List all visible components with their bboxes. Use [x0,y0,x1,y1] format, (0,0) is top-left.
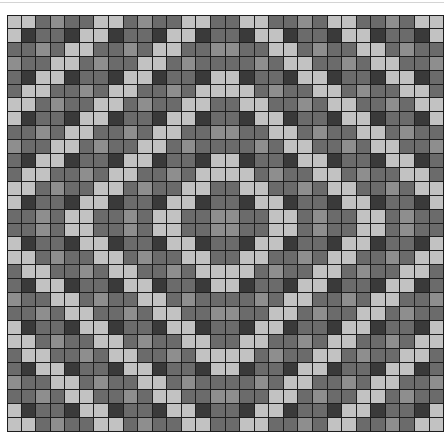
grid-cell [415,224,430,237]
grid-cell [22,363,36,376]
grid-cell [342,251,357,265]
grid-cell [109,112,124,126]
grid-cell [153,196,167,210]
grid-cell [357,196,371,210]
grid-cell [226,168,240,182]
grid-cell [36,390,51,404]
grid-cell [138,335,153,349]
grid-cell [226,140,240,154]
grid-cell [328,251,342,265]
grid-cell [328,71,342,85]
grid-cell [415,71,430,85]
grid-cell [80,335,94,349]
grid-cell [386,15,400,29]
grid-cell [284,251,298,265]
grid-cell [80,390,94,404]
grid-cell [196,29,211,43]
grid-cell [153,279,167,293]
grid-cell [182,196,196,210]
grid-cell [124,376,138,390]
grid-cell [124,57,138,71]
grid-cell [371,307,386,321]
grid-cell [328,404,342,418]
grid-cell [138,251,153,265]
grid-cell [400,376,415,390]
grid-cell [313,71,328,85]
grid-cell [167,307,182,321]
grid-cell [400,154,415,168]
grid-cell [167,112,182,126]
grid-cell [22,404,36,418]
grid-cell [80,237,94,251]
grid-cell [36,363,51,376]
grid-cell [65,57,80,71]
grid-cell [430,210,444,224]
grid-cell [22,15,36,29]
grid-cell [36,85,51,98]
grid-cell [153,85,167,98]
grid-cell [400,390,415,404]
grid-cell [94,349,109,363]
grid-cell [226,237,240,251]
grid-cell [7,321,22,335]
grid-cell [313,349,328,363]
grid-cell [211,126,226,140]
grid-cell [7,85,22,98]
grid-cell [7,140,22,154]
grid-cell [153,182,167,196]
grid-cell [7,112,22,126]
grid-cell [124,98,138,112]
grid-cell [386,293,400,307]
grid-cell [80,29,94,43]
grid-cell [284,293,298,307]
grid-cell [7,418,22,432]
grid-cell [415,307,430,321]
grid-cell [80,293,94,307]
grid-cell [342,265,357,279]
grid-cell [328,168,342,182]
grid-cell [240,279,255,293]
grid-cell [182,404,196,418]
grid-cell [269,404,284,418]
grid-cell [400,335,415,349]
grid-cell [211,335,226,349]
grid-cell [124,279,138,293]
grid-cell [400,182,415,196]
grid-cell [153,265,167,279]
grid-cell [313,335,328,349]
grid-cell [269,237,284,251]
grid-cell [255,43,269,57]
grid-cell [153,251,167,265]
grid-cell [94,335,109,349]
grid-cell [328,57,342,71]
grid-cell [94,29,109,43]
grid-cell [22,390,36,404]
grid-cell [36,154,51,168]
grid-cell [298,307,313,321]
grid-cell [240,376,255,390]
grid-cell [240,237,255,251]
grid-cell [400,349,415,363]
grid-cell [415,404,430,418]
grid-cell [313,293,328,307]
grid-cell [313,154,328,168]
grid-cell [211,251,226,265]
grid-cell [211,196,226,210]
grid-cell [138,43,153,57]
grid-cell [342,196,357,210]
grid-cell [226,376,240,390]
grid-cell [240,404,255,418]
grid-cell [313,140,328,154]
grid-cell [386,140,400,154]
grid-cell [196,57,211,71]
grid-cell [153,140,167,154]
grid-cell [298,15,313,29]
grid-cell [7,390,22,404]
grid-cell [313,168,328,182]
grid-cell [226,43,240,57]
grid-cell [255,321,269,335]
grid-cell [94,126,109,140]
grid-cell [371,154,386,168]
grid-cell [269,154,284,168]
grid-cell [400,140,415,154]
